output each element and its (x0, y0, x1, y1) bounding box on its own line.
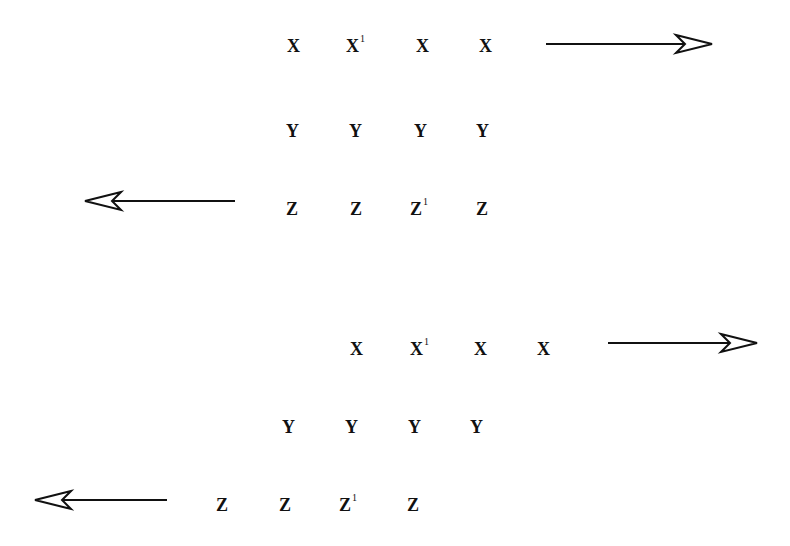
node-label-y: Y (414, 122, 427, 140)
label-text: X (346, 36, 359, 56)
node-label-z: Z (216, 496, 228, 514)
node-label-z: Z1 (339, 496, 357, 514)
label-text: Z (216, 495, 228, 515)
arrow-right-icon (608, 331, 757, 355)
node-label-y: Y (470, 418, 483, 436)
label-text: Y (345, 417, 358, 437)
node-label-z: Z (407, 496, 419, 514)
label-text: Z (476, 199, 488, 219)
node-label-y: Y (476, 122, 489, 140)
node-label-x: X1 (346, 37, 365, 55)
node-label-z: Z (350, 200, 362, 218)
label-text: Y (408, 417, 421, 437)
label-text: X (479, 36, 492, 56)
label-text: X (287, 36, 300, 56)
node-label-z: Z (476, 200, 488, 218)
label-text: X (474, 339, 487, 359)
label-text: X (350, 339, 363, 359)
label-superscript: 1 (424, 336, 429, 347)
label-text: Z (407, 495, 419, 515)
label-text: Y (282, 417, 295, 437)
node-label-y: Y (282, 418, 295, 436)
node-label-z: Z (286, 200, 298, 218)
label-superscript: 1 (423, 196, 428, 207)
label-superscript: 1 (360, 33, 365, 44)
node-label-x: X (287, 37, 300, 55)
node-label-x: X1 (410, 340, 429, 358)
label-text: Z (286, 199, 298, 219)
node-label-z: Z (279, 496, 291, 514)
label-text: Z (350, 199, 362, 219)
node-label-y: Y (408, 418, 421, 436)
label-text: Z (410, 199, 422, 219)
label-text: Y (414, 121, 427, 141)
node-label-y: Y (286, 122, 299, 140)
node-label-x: X (416, 37, 429, 55)
label-text: Z (339, 495, 351, 515)
arrow-right-icon (546, 32, 712, 56)
node-label-x: X (537, 340, 550, 358)
node-label-x: X (350, 340, 363, 358)
label-text: Y (470, 417, 483, 437)
label-text: Z (279, 495, 291, 515)
label-text: Y (349, 121, 362, 141)
label-text: X (416, 36, 429, 56)
arrow-left-icon (85, 189, 235, 213)
label-superscript: 1 (352, 492, 357, 503)
node-label-y: Y (349, 122, 362, 140)
node-label-x: X (479, 37, 492, 55)
diagram-canvas: XX1XXYYYYZZZ1ZXX1XXYYYYZZZ1Z (0, 0, 790, 546)
label-text: X (410, 339, 423, 359)
label-text: Y (476, 121, 489, 141)
node-label-z: Z1 (410, 200, 428, 218)
label-text: Y (286, 121, 299, 141)
arrow-left-icon (35, 488, 167, 512)
node-label-y: Y (345, 418, 358, 436)
node-label-x: X (474, 340, 487, 358)
label-text: X (537, 339, 550, 359)
